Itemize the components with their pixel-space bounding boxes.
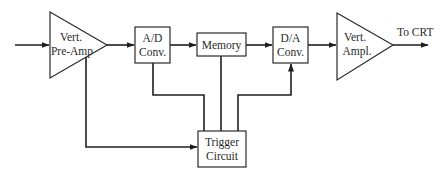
dac-label-1: D/A xyxy=(281,32,302,44)
vert-preamp-block: Vert. Pre-Amp xyxy=(50,12,107,78)
adc-label-1: A/D xyxy=(143,32,163,44)
memory-block: Memory xyxy=(197,33,246,56)
trigger-label-1: Trigger xyxy=(205,136,239,149)
adc-to-trigger-line xyxy=(153,63,204,131)
adc-block: A/D Conv. xyxy=(135,27,170,63)
trigger-label-2: Circuit xyxy=(206,150,239,162)
trigger-block: Trigger Circuit xyxy=(198,131,246,167)
preamp-label-1: Vert. xyxy=(60,31,82,43)
vert-ampl-block: Vert. Ampl. xyxy=(337,13,393,80)
preamp-label-2: Pre-Amp xyxy=(51,45,93,58)
adc-label-2: Conv. xyxy=(139,46,166,58)
dac-label-2: Conv. xyxy=(277,46,304,58)
ampl-label-1: Vert. xyxy=(344,31,366,43)
output-label: To CRT xyxy=(397,26,434,38)
trigger-to-dac-line xyxy=(238,64,291,131)
block-diagram: Vert. Pre-Amp A/D Conv. Memory D/A Conv.… xyxy=(0,0,444,178)
memory-label: Memory xyxy=(202,39,242,52)
preamp-to-trigger-line xyxy=(86,57,197,147)
ampl-label-2: Ampl. xyxy=(342,45,371,58)
dac-block: D/A Conv. xyxy=(273,27,308,63)
